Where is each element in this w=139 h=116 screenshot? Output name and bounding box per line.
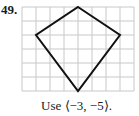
grid-lines — [22, 7, 134, 91]
caption: Use ⟨−3, −5⟩. — [0, 98, 139, 114]
kite-diagram — [0, 0, 139, 100]
